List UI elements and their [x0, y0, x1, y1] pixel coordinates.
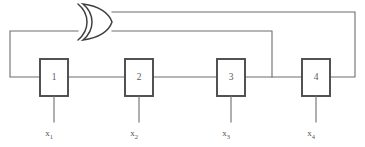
variable-subscript-1: 1: [50, 133, 53, 140]
variable-subscript-4: 4: [312, 133, 316, 140]
variable-label-2: x2: [130, 128, 138, 140]
register-number-4: 4: [314, 72, 319, 82]
register-number-2: 2: [137, 72, 142, 82]
variable-subscript-3: 3: [227, 133, 230, 140]
xor-gate-back-arc: [78, 4, 87, 40]
variable-subscript-2: 2: [135, 133, 138, 140]
register-number-1: 1: [52, 72, 57, 82]
variable-label-3: x3: [222, 128, 230, 140]
register-number-3: 3: [229, 72, 234, 82]
variable-label-4: x4: [307, 128, 316, 140]
lfsr-diagram: 1 x1 2 x2 3 x3 4 x4: [0, 0, 365, 147]
variable-label-1: x1: [45, 128, 53, 140]
